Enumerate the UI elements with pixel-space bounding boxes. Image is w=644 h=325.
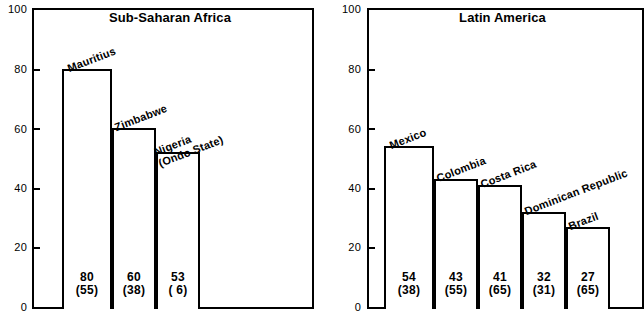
panel-title-latam: Latin America	[375, 10, 630, 25]
bar-value-paren-colombia: (55)	[434, 284, 478, 297]
y-tick-mark-latam-80	[367, 69, 375, 71]
bar-value-paren-brazil: (65)	[566, 284, 610, 297]
y-tick-label-60: 60	[0, 124, 27, 135]
y-tick-mark-20	[32, 247, 40, 249]
y-tick-mark-40	[32, 188, 40, 190]
y-tick-mark-latam-20	[367, 247, 375, 249]
y-tick-label-latam-20: 20	[332, 242, 361, 253]
y-tick-label-latam-40: 40	[332, 183, 361, 194]
bar-value-paren-mexico: (38)	[384, 284, 434, 297]
y-tick-label-latam-100: 100	[332, 4, 361, 15]
bar-value-mauritius: 80 (55)	[62, 271, 112, 297]
bar-value-paren-zimbabwe: (38)	[112, 284, 156, 297]
y-tick-mark-latam-40	[367, 188, 375, 190]
bar-value-brazil: 27 (65)	[566, 271, 610, 297]
y-tick-mark-80	[32, 69, 40, 71]
y-tick-label-40: 40	[0, 183, 27, 194]
chart-panel-sub-saharan-africa: Sub-Saharan Africa 100 80 60 40 20 0 80 …	[0, 0, 322, 325]
bar-value-dominican-republic: 32 (31)	[522, 271, 566, 297]
y-tick-label-20: 20	[0, 242, 27, 253]
bar-value-paren-mauritius: (55)	[62, 284, 112, 297]
y-tick-label-latam-60: 60	[332, 124, 361, 135]
bar-value-zimbabwe: 60 (38)	[112, 271, 156, 297]
chart-figure: Sub-Saharan Africa 100 80 60 40 20 0 80 …	[0, 0, 644, 325]
panel-title-africa: Sub-Saharan Africa	[40, 10, 300, 25]
bar-value-nigeria: 53 ( 6)	[156, 271, 200, 297]
bar-value-mexico: 54 (38)	[384, 271, 434, 297]
bar-value-paren-dominican-republic: (31)	[522, 284, 566, 297]
y-tick-mark-60	[32, 128, 40, 130]
bar-value-colombia: 43 (55)	[434, 271, 478, 297]
bar-value-paren-costa-rica: (65)	[478, 284, 522, 297]
y-tick-label-latam-80: 80	[332, 64, 361, 75]
y-tick-label-100: 100	[0, 4, 27, 15]
y-tick-label-80: 80	[0, 64, 27, 75]
y-tick-label-0: 0	[0, 302, 27, 313]
y-tick-label-latam-0: 0	[332, 302, 361, 313]
y-tick-mark-latam-60	[367, 128, 375, 130]
bar-value-paren-nigeria: ( 6)	[156, 284, 200, 297]
bar-value-costa-rica: 41 (65)	[478, 271, 522, 297]
chart-panel-latin-america: Latin America 100 80 60 40 20 0 54 (38) …	[322, 0, 644, 325]
